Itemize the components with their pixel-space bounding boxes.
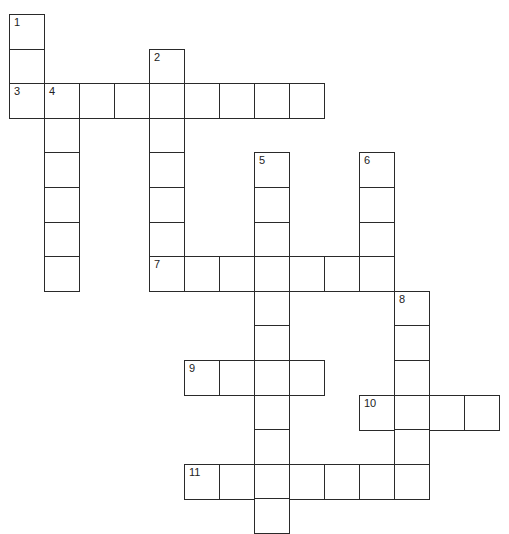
crossword-cell[interactable] [79,83,115,119]
clue-number: 11 [189,467,200,478]
crossword-cell[interactable]: 3 [9,83,45,119]
crossword-cell[interactable] [44,256,80,292]
clue-number: 8 [399,294,405,305]
crossword-cell[interactable] [324,464,360,500]
crossword-cell[interactable] [324,256,360,292]
crossword-cell[interactable] [254,360,290,396]
crossword-cell[interactable] [359,256,395,292]
crossword-cell[interactable]: 4 [44,83,80,119]
clue-number: 10 [364,398,376,409]
crossword-cell[interactable] [254,222,290,258]
crossword-cell[interactable] [149,118,185,154]
crossword-cell[interactable] [254,395,290,431]
crossword-cell[interactable] [254,325,290,361]
crossword-cell[interactable]: 1 [9,14,45,50]
crossword-cell[interactable] [289,360,325,396]
clue-number: 3 [14,86,20,97]
crossword-cell[interactable] [394,395,430,431]
crossword-cell[interactable] [184,256,220,292]
crossword-cell[interactable]: 7 [149,256,185,292]
crossword-cell[interactable] [254,498,290,534]
crossword-cell[interactable] [289,256,325,292]
crossword-cell[interactable] [254,187,290,223]
crossword-cell[interactable] [44,152,80,188]
crossword-cell[interactable] [219,464,255,500]
crossword-cell[interactable]: 6 [359,152,395,188]
crossword-cell[interactable]: 2 [149,49,185,85]
crossword-cell[interactable] [464,395,500,431]
crossword-cell[interactable]: 5 [254,152,290,188]
crossword-cell[interactable] [289,83,325,119]
clue-number: 1 [14,17,20,28]
crossword-cell[interactable] [184,83,220,119]
crossword-cell[interactable] [44,118,80,154]
crossword-cell[interactable] [289,464,325,500]
crossword-cell[interactable] [254,464,290,500]
clue-number: 4 [49,86,55,97]
crossword-cell[interactable] [394,360,430,396]
crossword-cell[interactable] [114,83,150,119]
clue-number: 2 [154,52,160,63]
crossword-cell[interactable] [394,429,430,465]
crossword-cell[interactable] [254,83,290,119]
crossword-cell[interactable] [359,464,395,500]
crossword-cell[interactable] [44,222,80,258]
crossword-cell[interactable] [254,429,290,465]
crossword-cell[interactable]: 8 [394,291,430,327]
crossword-cell[interactable] [9,49,45,85]
crossword-cell[interactable]: 10 [359,395,395,431]
crossword-cell[interactable] [429,395,465,431]
crossword-cell[interactable] [359,187,395,223]
crossword-cell[interactable] [219,360,255,396]
crossword-cell[interactable] [149,187,185,223]
clue-number: 9 [189,363,195,374]
crossword-cell[interactable] [44,187,80,223]
crossword-cell[interactable]: 9 [184,360,220,396]
crossword-cell[interactable] [394,464,430,500]
clue-number: 7 [154,259,160,270]
clue-number: 6 [364,155,370,166]
crossword-cell[interactable] [149,83,185,119]
crossword-cell[interactable] [149,222,185,258]
clue-number: 5 [259,155,265,166]
crossword-cell[interactable] [254,256,290,292]
crossword-cell[interactable] [254,291,290,327]
crossword-cell[interactable] [219,83,255,119]
crossword-cell[interactable]: 11 [184,464,220,500]
crossword-cell[interactable] [149,152,185,188]
crossword-cell[interactable] [394,325,430,361]
crossword-cell[interactable] [219,256,255,292]
crossword-cell[interactable] [359,222,395,258]
